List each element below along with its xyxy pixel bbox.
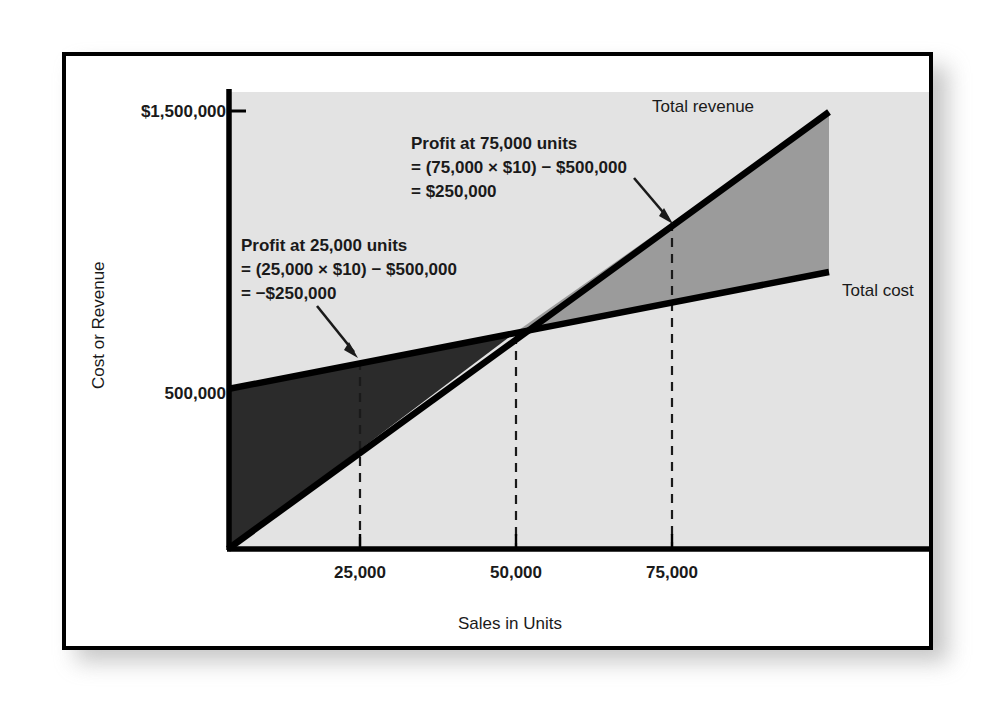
profit-annotation-line-2: = (75,000 × $10) − $500,000 bbox=[411, 156, 627, 180]
loss-annotation-line-1: Profit at 25,000 units bbox=[241, 234, 457, 258]
profit-annotation-line-3: = $250,000 bbox=[411, 180, 627, 204]
y-axis-title: Cost or Revenue bbox=[88, 261, 110, 389]
loss-annotation-line-2: = (25,000 × $10) − $500,000 bbox=[241, 258, 457, 282]
figure-frame: $1,500,000 500,000 Cost or Revenue 25,00… bbox=[62, 52, 933, 650]
y-tick-label-1500000: $1,500,000 bbox=[76, 101, 226, 123]
total-revenue-label: Total revenue bbox=[652, 96, 754, 118]
profit-annotation-line-1: Profit at 75,000 units bbox=[411, 132, 627, 156]
x-axis-title: Sales in Units bbox=[458, 613, 562, 635]
x-tick-label-50000: 50,000 bbox=[456, 562, 576, 584]
x-tick-label-25000: 25,000 bbox=[300, 562, 420, 584]
loss-annotation: Profit at 25,000 units = (25,000 × $10) … bbox=[241, 234, 457, 306]
loss-annotation-line-3: = −$250,000 bbox=[241, 282, 457, 306]
figure-root: $1,500,000 500,000 Cost or Revenue 25,00… bbox=[0, 0, 981, 702]
chart-canvas: $1,500,000 500,000 Cost or Revenue 25,00… bbox=[66, 56, 929, 646]
x-tick-label-75000: 75,000 bbox=[612, 562, 732, 584]
total-cost-label: Total cost bbox=[842, 280, 914, 302]
profit-annotation: Profit at 75,000 units = (75,000 × $10) … bbox=[411, 132, 627, 204]
